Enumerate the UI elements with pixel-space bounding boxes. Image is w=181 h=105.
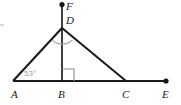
angle-ADB-arc	[53, 41, 63, 45]
side-DC	[62, 28, 126, 81]
geometry-canvas: A B C E D F 53°	[0, 0, 181, 105]
side-AD	[13, 28, 62, 81]
vertex-label-C: C	[122, 88, 130, 100]
geometry-figure: A B C E D F 53°	[0, 0, 181, 105]
right-angle-DBC-square	[62, 69, 74, 81]
angle-measure-A: 53°	[24, 69, 36, 78]
vertex-label-A: A	[10, 88, 18, 100]
endpoint-dot-F	[59, 2, 64, 7]
vertex-label-D: D	[65, 14, 74, 26]
vertex-label-E: E	[161, 88, 169, 100]
scan-artifact	[0, 24, 4, 26]
angle-BDC-arc	[62, 40, 73, 44]
endpoint-dot-E	[163, 78, 168, 83]
vertex-label-F: F	[65, 0, 73, 12]
vertex-label-B: B	[58, 88, 65, 100]
